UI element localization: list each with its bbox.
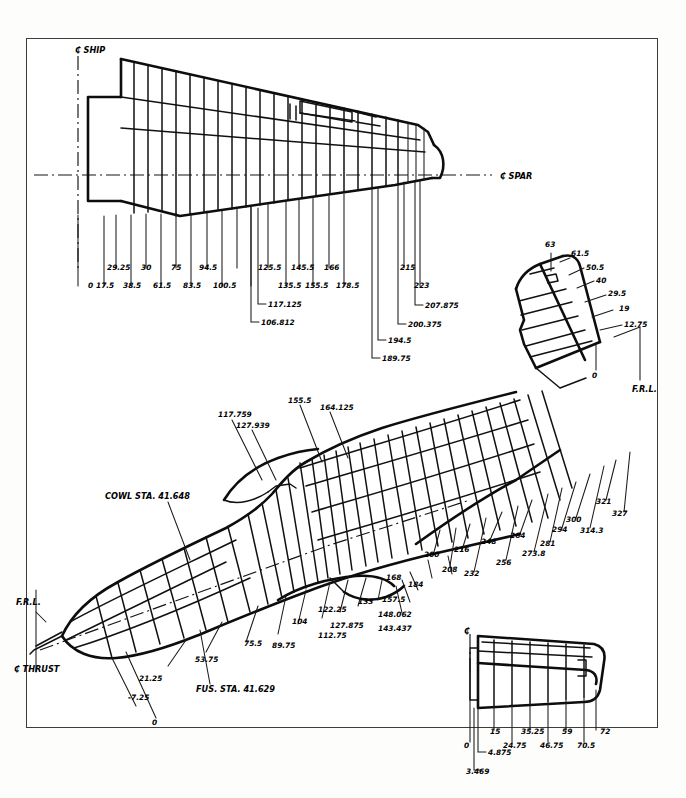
stabilizer-label-0: 0 <box>464 741 469 750</box>
stabilizer-label-46_75: 46.75 <box>540 741 563 750</box>
stabilizer-label-4_875: 4.875 <box>488 748 511 757</box>
stabilizer-label-24_75: 24.75 <box>503 741 526 750</box>
stabilizer-labels-root: 4.875 3.469 <box>466 748 511 776</box>
drawing-border-frame <box>26 38 658 728</box>
stabilizer-labels-upper: 15 35.25 59 72 <box>490 727 610 736</box>
stabilizer-label-72: 72 <box>600 727 610 736</box>
stabilizer-labels-lower: 0 24.75 46.75 70.5 <box>464 741 595 750</box>
stabilizer-label-59: 59 <box>562 727 572 736</box>
stabilizer-label-35_25: 35.25 <box>521 727 544 736</box>
stabilizer-label-3_469: 3.469 <box>466 767 489 776</box>
drawing-sheet: 0 17.5 38.5 61.5 83.5 100.5 135.5 155.5 … <box>0 0 686 798</box>
stabilizer-label-70_5: 70.5 <box>577 741 595 750</box>
stabilizer-label-15: 15 <box>490 727 500 736</box>
